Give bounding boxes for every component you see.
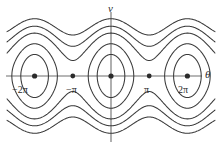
fixed-point-saddle [147,74,152,79]
phase-portrait-figure: v θ −2π −π π 2π [0,0,223,148]
tick-label-pi: π [144,85,149,95]
v-axis-label: v [108,3,113,14]
tick-label-minus-pi: −π [66,85,77,95]
fixed-point-center [108,73,113,78]
fixed-point-center [32,73,37,78]
phase-portrait-canvas [0,0,223,148]
fixed-point-center [185,73,190,78]
tick-label-minus-2pi: −2π [12,85,28,95]
theta-axis-label: θ [205,69,210,80]
tick-label-2pi: 2π [178,85,188,95]
fixed-point-saddle [70,74,75,79]
